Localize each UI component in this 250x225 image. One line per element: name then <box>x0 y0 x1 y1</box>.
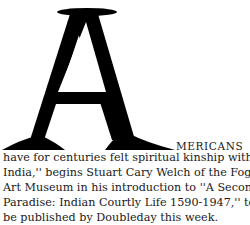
text-line-5: be published by Doubleday this week. <box>3 210 248 225</box>
text-line-1: have for centuries felt spiritual kinshi… <box>3 150 248 165</box>
text-line-4: Paradise: Indian Courtly Life 1590-1947,… <box>3 195 248 210</box>
text-line-3: Art Museum in his introduction to ''A Se… <box>3 180 248 195</box>
text-line-2: India,'' begins Stuart Cary Welch of the… <box>3 165 248 180</box>
drop-cap-letter-a: A <box>0 0 180 152</box>
